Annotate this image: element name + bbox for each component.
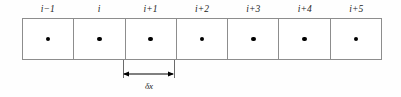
grid-cell (177, 19, 228, 59)
node-dot-icon (148, 37, 153, 42)
grid-cell (331, 19, 381, 59)
grid-cell (126, 19, 177, 59)
node-dot-icon (354, 37, 359, 42)
cell-label-i-minus-1: i−1 (22, 1, 73, 17)
node-dot-icon (200, 37, 205, 42)
node-dot-icon (46, 37, 51, 42)
cell-label-i-plus-5: i+5 (331, 1, 382, 17)
grid-cell (23, 19, 74, 59)
grid-spacing-figure: i−1 i i+1 i+2 i+3 i+4 i+5 (0, 0, 401, 97)
spacing-label: δx (120, 80, 178, 93)
cell-label-i-plus-3: i+3 (228, 1, 279, 17)
spacing-dimension-annotation: δx (120, 60, 182, 96)
grid-cell (279, 19, 330, 59)
grid-cell (74, 19, 125, 59)
grid-cell-row (22, 18, 382, 60)
node-dot-icon (97, 37, 102, 42)
cell-label-i-plus-2: i+2 (176, 1, 227, 17)
cell-label-i-plus-4: i+4 (279, 1, 330, 17)
grid-cell (228, 19, 279, 59)
node-dot-icon (302, 37, 307, 42)
node-dot-icon (251, 37, 256, 42)
cell-label-row: i−1 i i+1 i+2 i+3 i+4 i+5 (22, 1, 382, 17)
double-arrow-icon (120, 68, 182, 80)
cell-label-i: i (73, 1, 124, 17)
cell-label-i-plus-1: i+1 (125, 1, 176, 17)
